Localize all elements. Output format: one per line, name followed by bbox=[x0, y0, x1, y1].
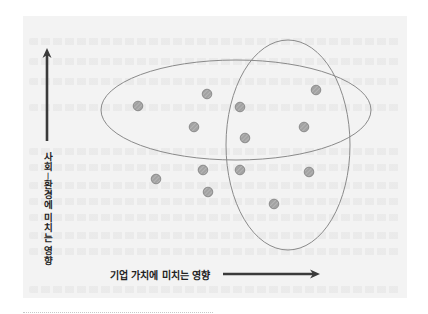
y-axis-label-char: 에 bbox=[44, 200, 53, 210]
data-point bbox=[189, 122, 199, 132]
points-group bbox=[133, 85, 321, 209]
y-axis-label: 사회|환경에미치는영향 bbox=[38, 152, 58, 266]
data-point bbox=[151, 174, 161, 184]
data-point bbox=[235, 165, 245, 175]
data-point bbox=[269, 199, 279, 209]
data-point bbox=[240, 133, 250, 143]
data-point bbox=[198, 165, 208, 175]
x-axis-label: 기업 가치에 미치는 영향 bbox=[110, 267, 210, 282]
data-point bbox=[202, 89, 212, 99]
data-point bbox=[299, 122, 309, 132]
y-axis-label-char: 향 bbox=[44, 256, 53, 266]
y-axis-label-char: 회 bbox=[44, 162, 53, 172]
data-point bbox=[203, 187, 213, 197]
data-point bbox=[311, 85, 321, 95]
venn-scatter-diagram bbox=[0, 0, 428, 314]
footer-divider bbox=[23, 312, 213, 313]
ellipses-group bbox=[101, 40, 371, 250]
data-point bbox=[235, 102, 245, 112]
y-axis-label-char: 는 bbox=[44, 233, 53, 243]
data-point bbox=[133, 101, 143, 111]
data-point bbox=[304, 167, 314, 177]
axis-arrows bbox=[43, 48, 321, 279]
